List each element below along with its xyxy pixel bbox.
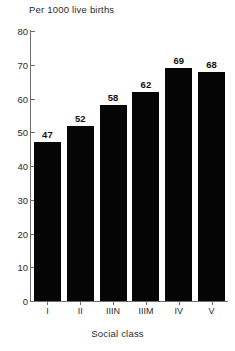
x-tick-mark: [47, 302, 48, 305]
x-tick-label: V: [209, 306, 215, 316]
x-tick-mark: [212, 302, 213, 305]
x-tick-mark: [80, 302, 81, 305]
x-tick-label: I: [46, 306, 49, 316]
x-axis-labels: IIIIIINIIIMIVV: [0, 0, 235, 351]
bar-chart: Per 1000 live births 01020304050607080 4…: [0, 0, 235, 351]
x-tick-label: II: [78, 306, 83, 316]
x-tick-mark: [113, 302, 114, 305]
x-tick-label: IIIN: [106, 306, 120, 316]
x-tick-mark: [146, 302, 147, 305]
x-axis-title: Social class: [0, 328, 235, 339]
x-tick-label: IIIM: [138, 306, 153, 316]
x-tick-mark: [179, 302, 180, 305]
x-tick-label: IV: [174, 306, 183, 316]
